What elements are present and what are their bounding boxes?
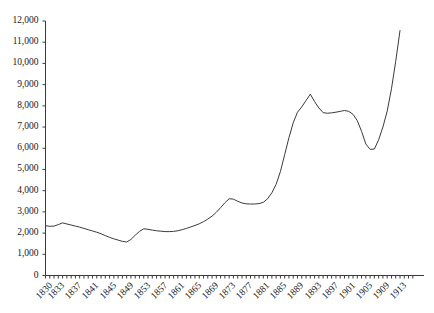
y-axis-tick-label: 0 xyxy=(0,271,39,281)
y-axis-tick-label: 3,000 xyxy=(0,207,39,217)
y-axis-tick-label: 10,000 xyxy=(0,58,39,68)
data-series-group xyxy=(46,31,401,242)
x-axis-ticks xyxy=(46,276,413,279)
y-axis-tick-label: 12,000 xyxy=(0,16,39,26)
y-axis-tick-label: 9,000 xyxy=(0,80,39,90)
y-axis-tick-label: 4,000 xyxy=(0,186,39,196)
y-axis-group xyxy=(43,21,46,276)
line-chart: 12,00011,00010,0009,0008,0007,0006,0005,… xyxy=(0,0,434,313)
chart-plot-area xyxy=(0,0,434,313)
y-axis-tick-label: 11,000 xyxy=(0,37,39,47)
data-line-series-1 xyxy=(46,31,401,242)
x-axis-group xyxy=(46,276,425,279)
y-axis-tick-label: 6,000 xyxy=(0,143,39,153)
y-axis-tick-label: 2,000 xyxy=(0,228,39,238)
y-axis-tick-label: 7,000 xyxy=(0,122,39,132)
y-axis-tick-label: 1,000 xyxy=(0,249,39,259)
y-axis-tick-label: 5,000 xyxy=(0,164,39,174)
y-axis-tick-label: 8,000 xyxy=(0,101,39,111)
